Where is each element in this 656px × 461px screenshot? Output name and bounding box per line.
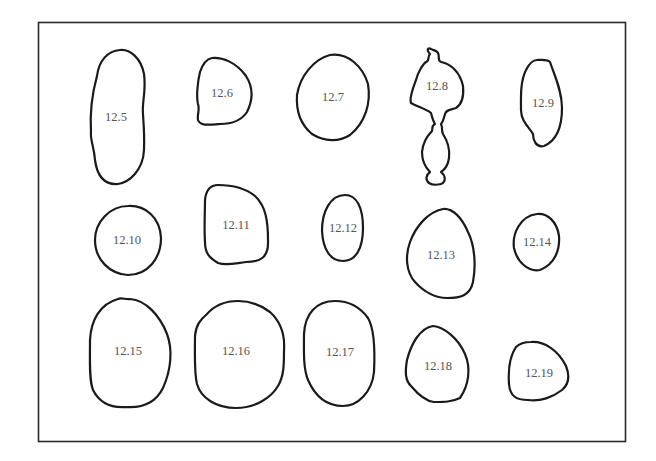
- shape-12-18: 12.18: [406, 326, 469, 402]
- shape-label: 12.11: [222, 218, 250, 232]
- shape-label: 12.8: [426, 79, 448, 93]
- shape-label: 12.12: [329, 221, 357, 235]
- shape-label: 12.9: [532, 96, 554, 110]
- shape-12-10: 12.10: [95, 206, 161, 275]
- shape-label: 12.18: [424, 359, 452, 373]
- shape-label: 12.19: [525, 366, 553, 380]
- shape-label: 12.15: [114, 344, 142, 358]
- figure-canvas: 12.5 12.6 12.7 12.8 12.9 12.10 12.11 12.…: [0, 0, 656, 461]
- shape-label: 12.17: [326, 345, 354, 359]
- shape-12-16: 12.16: [195, 301, 284, 408]
- shape-12-15: 12.15: [90, 298, 171, 407]
- shape-label: 12.10: [113, 233, 141, 247]
- shape-12-14: 12.14: [514, 214, 559, 270]
- shape-12-17: 12.17: [304, 301, 375, 406]
- shape-12-11: 12.11: [205, 185, 269, 264]
- shape-label: 12.14: [523, 235, 552, 249]
- shape-label: 12.16: [222, 344, 250, 358]
- shape-12-6: 12.6: [197, 58, 251, 125]
- shape-label: 12.6: [211, 86, 233, 100]
- shape-label: 12.13: [427, 248, 455, 262]
- shape-12-7: 12.7: [297, 55, 369, 141]
- shape-12-8: 12.8: [410, 48, 463, 184]
- shape-12-13: 12.13: [407, 209, 475, 298]
- shape-label: 12.5: [105, 110, 127, 124]
- shape-12-19: 12.19: [509, 342, 569, 401]
- shape-12-12: 12.12: [322, 195, 363, 261]
- shape-12-9: 12.9: [521, 60, 562, 146]
- shape-label: 12.7: [322, 90, 344, 104]
- shape-12-5: 12.5: [91, 50, 145, 184]
